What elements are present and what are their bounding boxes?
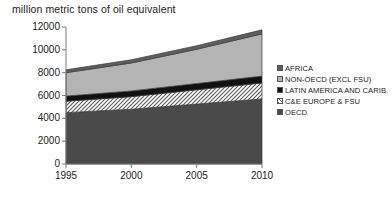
legend-item[interactable]: C&E EUROPE & FSU <box>277 96 388 106</box>
x-tick-label: 2005 <box>175 170 219 181</box>
x-tick-label: 1995 <box>44 170 88 181</box>
y-tick-label: 10000 <box>18 44 60 55</box>
x-tick-label: 2010 <box>240 170 284 181</box>
y-tick-label: 12000 <box>18 21 60 32</box>
x-tick-label: 2000 <box>109 170 153 181</box>
y-tick-label: 6000 <box>18 90 60 101</box>
stacked-areas <box>66 30 262 164</box>
legend-swatch-icon <box>277 109 283 115</box>
legend-swatch-icon <box>277 76 283 82</box>
y-tick-label: 2000 <box>18 135 60 146</box>
legend-item[interactable]: NON-OECD (EXCL FSU) <box>277 74 388 84</box>
legend-item-label: OECD <box>285 108 307 117</box>
legend-item[interactable]: OECD <box>277 107 388 117</box>
y-tick-label: 4000 <box>18 112 60 123</box>
y-tick-label: 8000 <box>18 67 60 78</box>
legend-item-label: C&E EUROPE & FSU <box>285 97 360 106</box>
legend-swatch-icon <box>277 98 283 104</box>
chart-container: million metric tons of oil equivalent 02… <box>0 0 392 199</box>
chart-legend: AFRICANON-OECD (EXCL FSU)LATIN AMERICA A… <box>277 63 388 117</box>
legend-item-label: NON-OECD (EXCL FSU) <box>285 75 371 84</box>
legend-swatch-icon <box>277 87 283 93</box>
legend-swatch-icon <box>277 65 283 71</box>
legend-item[interactable]: LATIN AMERICA AND CARIB. <box>277 85 388 95</box>
y-tick-label: 0 <box>18 158 60 169</box>
legend-item-label: AFRICA <box>285 64 313 73</box>
legend-item-label: LATIN AMERICA AND CARIB. <box>285 86 388 95</box>
legend-item[interactable]: AFRICA <box>277 63 388 73</box>
